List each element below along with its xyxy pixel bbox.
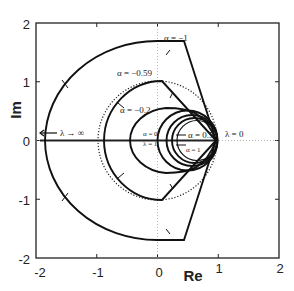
label-alpha-0: α = 0 [143, 130, 158, 138]
xtick-m1: -1 [92, 265, 104, 280]
xtick-1: 1 [215, 261, 222, 276]
label-lambda-0: λ = 0 [225, 129, 244, 139]
xtick-0: 0 [155, 265, 162, 280]
ytick-m1: -1 [18, 193, 30, 208]
ytick-m2: -2 [18, 252, 30, 267]
label-alpha-1: α = 1 [186, 146, 201, 154]
lambda-inf-arrow [40, 130, 57, 136]
ytick-1: 1 [23, 75, 30, 90]
ytick-0: 0 [23, 134, 30, 149]
label-alpha-05: α = 0.5 [188, 130, 214, 140]
xtick-m2: -2 [34, 265, 46, 280]
label-lambda-1: λ = 1 [143, 140, 158, 148]
x-axis-label: Re [183, 267, 202, 284]
xtick-2: 2 [276, 261, 283, 276]
y-axis-label: Im [7, 101, 24, 119]
label-alpha-m02: α = −0.2 [120, 105, 151, 115]
ytick-2: 2 [23, 17, 30, 32]
label-lambda-inf: λ → ∞ [60, 128, 84, 138]
root-locus-chart: α = −1 α = −0.59 α = −0.2 α = 0 λ = 1 α … [0, 0, 294, 291]
label-alpha-m1: α = −1 [164, 33, 188, 43]
label-alpha-m059: α = −0.59 [117, 68, 153, 78]
